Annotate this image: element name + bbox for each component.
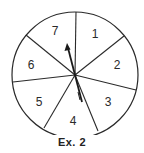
spinner-arrow-icon bbox=[65, 43, 83, 102]
divider-line bbox=[75, 75, 98, 131]
section-label-5: 5 bbox=[36, 95, 43, 109]
spinner-diagram: 1 2 3 4 5 6 7 bbox=[0, 0, 144, 135]
divider-line bbox=[13, 75, 75, 82]
section-label-7: 7 bbox=[52, 24, 59, 38]
center-pivot bbox=[74, 74, 77, 77]
figure-caption: Ex. 2 bbox=[0, 136, 144, 148]
section-label-1: 1 bbox=[92, 27, 99, 41]
section-label-3: 3 bbox=[105, 95, 112, 109]
divider-line bbox=[75, 75, 136, 90]
section-label-2: 2 bbox=[114, 58, 121, 72]
section-label-4: 4 bbox=[70, 114, 77, 128]
section-label-6: 6 bbox=[28, 58, 35, 72]
divider-line bbox=[75, 12, 76, 75]
